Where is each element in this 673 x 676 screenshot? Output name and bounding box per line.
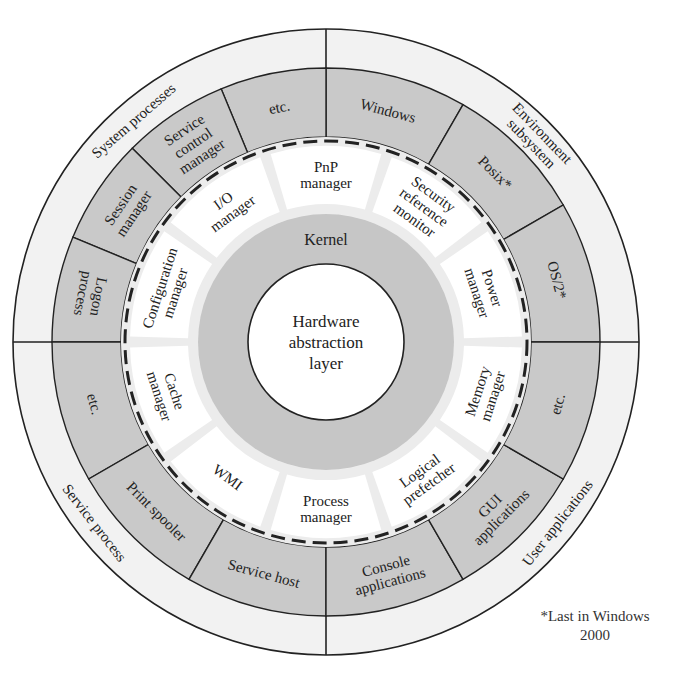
kernel-label: Kernel: [304, 231, 348, 248]
footnote-line-1: *Last in Windows: [520, 607, 670, 626]
footnote-line-2: 2000: [520, 626, 670, 645]
module-label-process-manager: Processmanager: [300, 493, 352, 525]
architecture-ring-diagram: WindowsPosix*OS/2*etc.Servicecontrolmana…: [0, 0, 673, 676]
footnote: *Last in Windows 2000: [520, 607, 670, 645]
